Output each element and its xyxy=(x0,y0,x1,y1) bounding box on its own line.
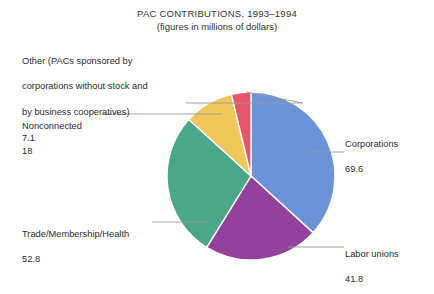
callout-labor-unions-label: Labor unions xyxy=(345,248,433,261)
callout-other-line2: corporations without stock and xyxy=(22,80,192,93)
callout-corporations-label: Corporations xyxy=(345,138,433,151)
callout-other-line1: Other (PACs sponsored by xyxy=(22,55,192,68)
callout-trade-label: Trade/Membership/Health xyxy=(22,228,182,241)
pie-slice-group xyxy=(167,92,335,260)
callout-corporations-value: 69.6 xyxy=(345,163,433,176)
callout-nonconnected-label: Nonconnected xyxy=(22,120,172,133)
callout-trade: Trade/Membership/Health 52.8 xyxy=(22,215,182,279)
callout-corporations: Corporations 69.6 xyxy=(345,125,433,189)
callout-nonconnected-value: 18 xyxy=(22,145,172,158)
callout-nonconnected: Nonconnected 18 xyxy=(22,107,172,171)
callout-trade-value: 52.8 xyxy=(22,253,182,266)
pie-chart-figure: PAC CONTRIBUTIONS, 1993–1994 (figures in… xyxy=(0,0,434,294)
callout-labor-unions-value: 41.8 xyxy=(345,273,433,286)
callout-labor-unions: Labor unions 41.8 xyxy=(345,235,433,294)
